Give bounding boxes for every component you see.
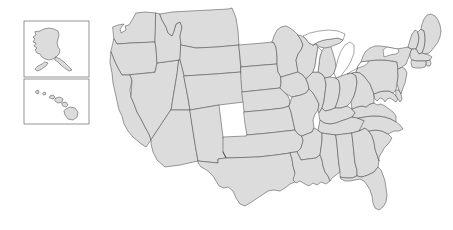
state-wyoming[interactable] — [180, 45, 241, 76]
us-map-svg — [0, 0, 453, 230]
state-connecticut[interactable] — [411, 60, 426, 68]
state-south-dakota[interactable] — [241, 64, 281, 92]
state-rhode-island[interactable] — [426, 60, 431, 66]
state-north-dakota[interactable] — [239, 42, 277, 67]
us-map-figure: Map of the United States — [0, 0, 453, 230]
